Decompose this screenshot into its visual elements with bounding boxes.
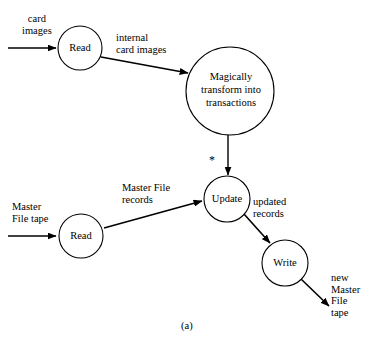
node-read-master-label: Read [70,230,92,241]
node-write[interactable]: Write [262,240,308,286]
node-update-label: Update [212,193,243,204]
edge-label-updated-records: updated records [253,196,286,219]
node-read-cards[interactable]: Read [58,26,102,70]
dataflow-diagram: Read Magically transform into transactio… [0,0,382,352]
edge-label-card-images: card images [22,13,52,36]
asterisk-annotation: * [209,155,215,165]
node-transform-label-line3: transactions [206,97,256,108]
edge-new-master-file-tape [301,279,329,306]
edge-label-internal-card-images: internal card images [116,32,166,55]
node-update[interactable]: Update [204,176,250,222]
edge-internal-card-images [101,57,188,73]
node-read-cards-label: Read [69,42,91,53]
edge-label-master-file-tape: Master File tape [12,201,48,224]
node-write-label: Write [273,257,297,268]
diagram-canvas: Read Magically transform into transactio… [0,0,382,352]
figure-caption: (a) [181,320,193,331]
node-transform[interactable]: Magically transform into transactions [186,47,274,135]
node-read-master[interactable]: Read [59,214,103,258]
edge-label-master-file-records: Master File records [122,182,170,205]
node-transform-label-line1: Magically [210,71,253,82]
node-transform-label-line2: transform into [201,84,261,95]
edge-label-new-master-file-tape: new Master File tape [331,272,360,318]
